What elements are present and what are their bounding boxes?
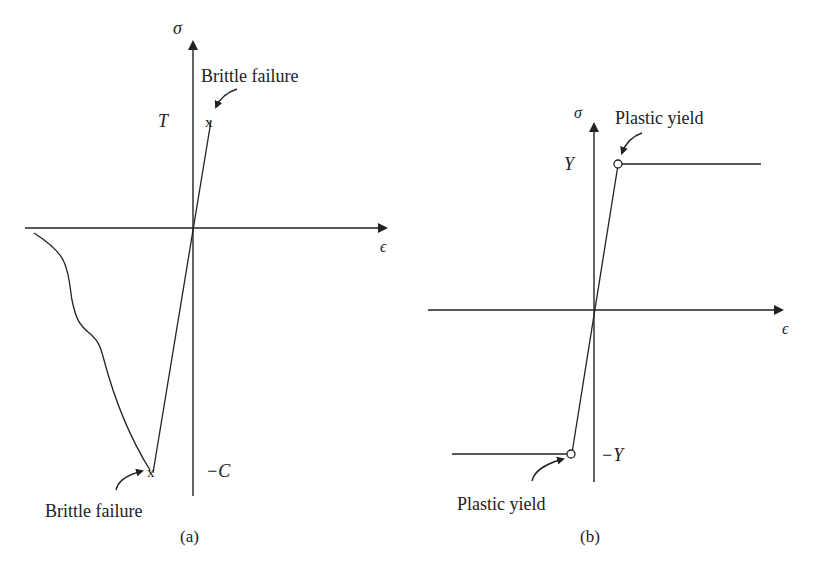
compressive-curve-a [34, 233, 150, 470]
tensile-strength-label: T [158, 111, 170, 131]
caption-a: (a) [180, 527, 199, 546]
annotation-arrow-icon [622, 133, 642, 153]
compressive-strength-label: −C [206, 461, 231, 481]
panel-a: x x σ ϵ T −C Brittle failure Brittle fai… [25, 18, 387, 546]
caption-b: (b) [580, 527, 600, 546]
plastic-yield-annotation-bottom: Plastic yield [457, 494, 546, 514]
epsilon-label-b: ϵ [782, 320, 789, 337]
brittle-failure-annotation-top: Brittle failure [201, 66, 298, 86]
annotation-arrow-icon [116, 471, 142, 490]
annotation-arrow-icon [532, 459, 563, 481]
yield-point-bottom [567, 450, 575, 458]
negative-yield-stress-label: −Y [601, 445, 625, 465]
epsilon-label-a: ϵ [380, 238, 387, 255]
elastic-line-b [572, 165, 618, 453]
failure-marker-bottom-a: x [147, 464, 155, 480]
sigma-label-a: σ [173, 18, 183, 38]
brittle-failure-annotation-bottom: Brittle failure [45, 501, 142, 521]
panel-b: σ ϵ Y −Y Plastic yield Plastic yield (b) [428, 104, 789, 546]
failure-marker-top-a: x [205, 114, 213, 130]
yield-point-top [614, 160, 622, 168]
elastic-line-a [153, 121, 211, 473]
yield-stress-label: Y [564, 154, 576, 174]
sigma-label-b: σ [574, 104, 583, 121]
annotation-arrow-icon [216, 89, 237, 107]
plastic-yield-annotation-top: Plastic yield [615, 108, 704, 128]
stress-strain-diagram: x x σ ϵ T −C Brittle failure Brittle fai… [0, 0, 813, 575]
